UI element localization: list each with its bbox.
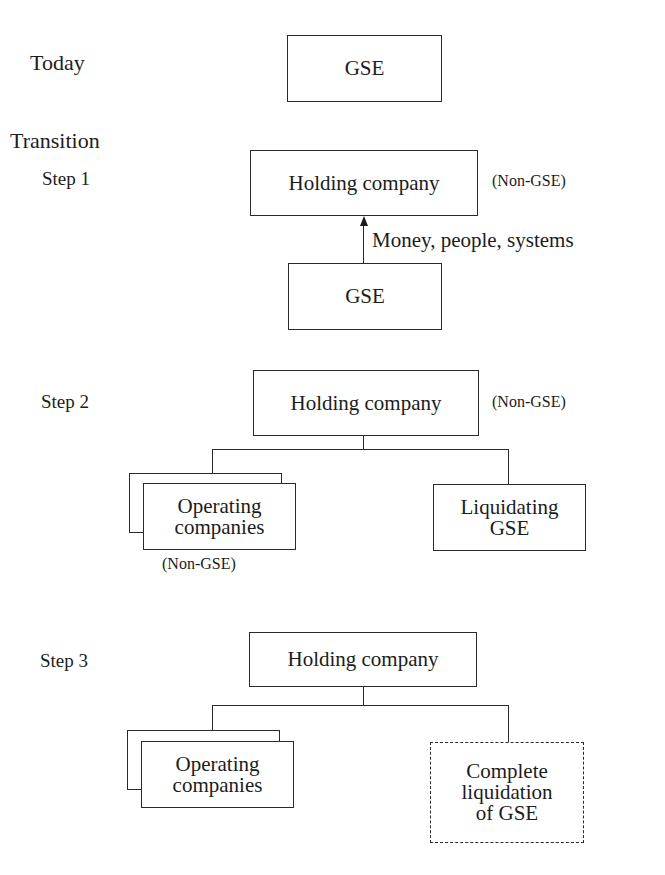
arrow-up-icon	[360, 216, 368, 226]
step2-holding-company-box: Holding company	[253, 370, 479, 436]
row-label-step-1: Step 1	[42, 168, 90, 190]
row-label-today: Today	[30, 50, 85, 76]
step1-gse-box: GSE	[288, 263, 442, 330]
step2-operating-companies-box: Operating companies	[143, 483, 296, 550]
step2-connector-left	[212, 449, 213, 473]
step2-liquidating-line2: GSE	[490, 518, 530, 539]
step1-holding-company-text: Holding company	[288, 172, 439, 194]
row-label-step-3: Step 3	[40, 650, 88, 672]
row-label-transition: Transition	[10, 128, 100, 154]
step2-operating-non-gse-note: (Non-GSE)	[162, 555, 236, 573]
step1-gse-text: GSE	[345, 285, 385, 307]
step3-connector-bar	[212, 705, 508, 706]
step1-holding-company-box: Holding company	[250, 150, 478, 216]
step1-arrow-label: Money, people, systems	[372, 228, 574, 253]
step3-connector-trunk	[363, 687, 364, 705]
step3-liquidation-line1: Complete	[466, 761, 548, 782]
step3-liquidation-line2: liquidation	[462, 782, 553, 803]
step2-operating-line2: companies	[175, 517, 265, 538]
step2-connector-right	[508, 449, 509, 484]
step3-connector-left	[212, 705, 213, 730]
step2-non-gse-note: (Non-GSE)	[492, 393, 566, 411]
step3-operating-line1: Operating	[176, 754, 260, 775]
step3-holding-company-text: Holding company	[287, 648, 438, 670]
step1-arrow-shaft	[363, 224, 364, 263]
step3-connector-right	[508, 705, 509, 742]
today-gse-box: GSE	[287, 35, 442, 102]
step2-connector-bar	[212, 449, 508, 450]
step3-operating-line2: companies	[173, 775, 263, 796]
step1-non-gse-note: (Non-GSE)	[492, 172, 566, 190]
step2-liquidating-line1: Liquidating	[461, 497, 559, 518]
step2-liquidating-gse-box: Liquidating GSE	[433, 484, 586, 551]
step2-operating-line1: Operating	[178, 496, 262, 517]
row-label-step-2: Step 2	[41, 391, 89, 413]
today-gse-text: GSE	[345, 57, 385, 79]
step2-holding-company-text: Holding company	[290, 392, 441, 414]
step3-operating-companies-box: Operating companies	[141, 741, 294, 808]
step2-connector-trunk	[363, 436, 364, 449]
step3-complete-liquidation-box: Complete liquidation of GSE	[430, 742, 584, 843]
step3-holding-company-box: Holding company	[249, 632, 477, 687]
step3-liquidation-line3: of GSE	[476, 803, 538, 824]
